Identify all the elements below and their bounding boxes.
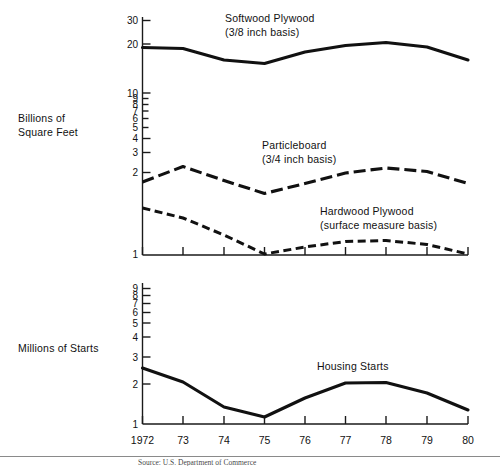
wood-products-and-housing-starts-chart: 30 20 10 9 8 7 6 5 4 3 2 1 [0,0,500,466]
series-line-particleboard [143,167,469,194]
x-axis-tick-labels: 1972 73 74 75 76 77 78 79 80 [131,434,474,446]
ytick-label-4: 4 [132,133,138,144]
ytick-label-5: 5 [132,122,138,133]
ytick-label-2: 2 [132,167,138,178]
series-line-softwood-plywood [143,43,469,64]
annotation-softwood-plywood-line2: (3/8 inch basis) [225,26,299,38]
xtick-label-79: 79 [421,434,433,446]
ytick-label-30: 30 [127,15,139,26]
b-ytick-label-2: 2 [132,379,138,390]
annotation-hardwood-plywood-line2: (surface measure basis) [320,219,437,231]
annotation-housing-starts: Housing Starts [317,360,389,372]
bottom-panel-y-axis-label: Millions of Starts [18,342,99,354]
annotation-particleboard-line2: (3/4 inch basis) [262,153,336,165]
xtick-label-77: 77 [340,434,352,446]
annotation-particleboard-line1: Particleboard [262,139,326,151]
xtick-label-78: 78 [380,434,392,446]
chart-figure: 30 20 10 9 8 7 6 5 4 3 2 1 [0,0,500,466]
top-panel-y-axis-label-line1: Billions of [18,112,65,124]
ytick-label-1: 1 [132,249,138,260]
footer: Source: U.S. Department of Commerce [0,457,500,466]
xtick-label-73: 73 [177,434,189,446]
bottom-panel-x-ticks [143,416,469,424]
source-note: Source: U.S. Department of Commerce [138,458,257,466]
xtick-label-75: 75 [259,434,271,446]
b-ytick-label-3: 3 [132,352,138,363]
bottom-panel: 9 8 7 6 5 4 3 2 1 Ho [18,283,468,430]
xtick-label-1972: 1972 [131,434,155,446]
b-ytick-label-4: 4 [132,332,138,343]
xtick-label-80: 80 [462,434,474,446]
top-panel-x-ticks [143,247,469,255]
xtick-label-76: 76 [299,434,311,446]
top-panel-y-axis-label-line2: Square Feet [18,126,78,138]
series-line-housing-starts [143,368,469,417]
xtick-label-74: 74 [218,434,230,446]
annotation-hardwood-plywood-line1: Hardwood Plywood [320,205,414,217]
b-ytick-label-6: 6 [132,307,138,318]
top-panel-y-ticks [143,21,151,173]
annotation-softwood-plywood-line1: Softwood Plywood [225,12,315,24]
b-ytick-label-5: 5 [132,318,138,329]
top-panel: 30 20 10 9 8 7 6 5 4 3 2 1 [18,12,468,260]
ytick-label-3: 3 [132,147,138,158]
ytick-label-20: 20 [127,39,139,50]
b-ytick-label-1: 1 [132,419,138,430]
